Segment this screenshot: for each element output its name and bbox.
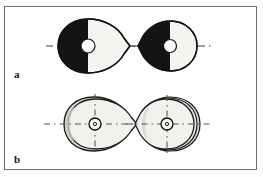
shape-ovoid-b1 bbox=[44, 94, 148, 156]
panel-b-group bbox=[44, 94, 212, 156]
figure-drawing bbox=[0, 0, 263, 177]
shape-ovoid-b2 bbox=[126, 95, 212, 155]
center-dot-b1 bbox=[93, 122, 96, 125]
shape-ovoid-a2 bbox=[138, 21, 197, 71]
panel-label-a: a bbox=[14, 69, 20, 80]
figure-root: a b bbox=[0, 0, 263, 177]
panel-a-group bbox=[46, 19, 212, 73]
center-hole-a2 bbox=[164, 40, 177, 53]
center-dot-b2 bbox=[165, 122, 168, 125]
center-hole-a1 bbox=[81, 39, 95, 53]
shape-ovoid-a1 bbox=[58, 19, 130, 73]
panel-label-b: b bbox=[14, 154, 20, 165]
